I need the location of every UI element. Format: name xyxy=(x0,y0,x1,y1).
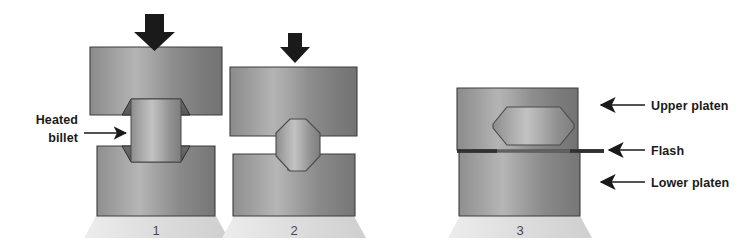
stage-3-forged-part xyxy=(493,107,574,145)
stage-2-upset-billet xyxy=(276,119,320,171)
upper-platen-label: Upper platen xyxy=(651,99,729,113)
lower-platen-label: Lower platen xyxy=(651,176,729,190)
stage-3-lower-platen xyxy=(459,152,580,216)
forging-diagram-svg: 1 2 xyxy=(0,0,755,252)
flash-label: Flash xyxy=(651,144,684,158)
heated-billet-label-line1: Heated xyxy=(36,113,78,127)
stage-number-1: 1 xyxy=(152,223,159,238)
forging-process-diagram: 1 2 xyxy=(0,0,755,252)
heated-billet-workpiece xyxy=(131,99,181,162)
stage-number-2: 2 xyxy=(290,223,297,238)
heated-billet-label-line2: billet xyxy=(48,131,79,145)
stage-number-3: 3 xyxy=(516,223,523,238)
